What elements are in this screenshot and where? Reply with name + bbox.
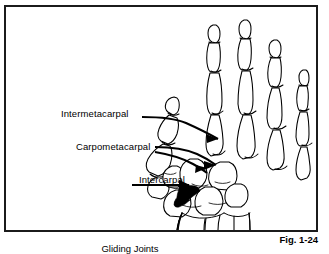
- figure-root: Intermetacarpal Carpometacarpal Intercar…: [0, 0, 329, 254]
- illustration-frame: Intermetacarpal Carpometacarpal Intercar…: [4, 5, 318, 232]
- label-intermetacarpal: Intermetacarpal: [61, 108, 129, 119]
- figure-number: Fig. 1-24: [279, 234, 318, 245]
- label-intercarpal: Intercarpal: [139, 174, 185, 185]
- hand-skeleton-illustration: [6, 7, 316, 230]
- label-carpometacarpal: Carpometacarpal: [76, 141, 150, 152]
- figure-caption: Gliding Joints: [0, 243, 260, 254]
